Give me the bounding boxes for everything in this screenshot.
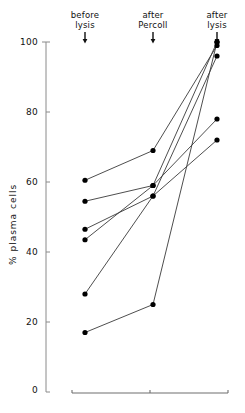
data-point bbox=[82, 227, 87, 232]
data-point bbox=[82, 291, 87, 296]
data-point bbox=[214, 116, 219, 121]
series-line bbox=[85, 56, 217, 229]
down-arrow-icon bbox=[151, 39, 156, 44]
axis-group bbox=[42, 42, 46, 392]
series-lines bbox=[85, 42, 217, 333]
data-point bbox=[82, 199, 87, 204]
plasma-cell-line-chart: before lysis after Percoll after lysis 1… bbox=[0, 0, 245, 413]
data-point bbox=[82, 178, 87, 183]
data-point bbox=[150, 183, 155, 188]
column-arrows bbox=[83, 32, 220, 44]
data-point bbox=[214, 53, 219, 58]
down-arrow-icon bbox=[83, 39, 88, 44]
series-line bbox=[85, 119, 217, 240]
data-point bbox=[82, 237, 87, 242]
data-point bbox=[150, 148, 155, 153]
y-axis-ticks bbox=[46, 42, 50, 392]
series-line bbox=[85, 140, 217, 294]
chart-canvas bbox=[0, 0, 245, 413]
baseline-group bbox=[72, 390, 228, 393]
series-line bbox=[85, 46, 217, 181]
data-point bbox=[214, 137, 219, 142]
data-point bbox=[82, 330, 87, 335]
data-point bbox=[150, 302, 155, 307]
data-point bbox=[214, 39, 219, 44]
data-point bbox=[150, 193, 155, 198]
